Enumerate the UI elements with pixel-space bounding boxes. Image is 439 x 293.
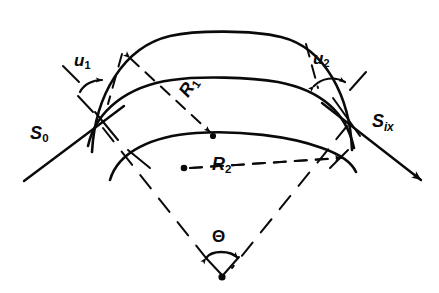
radius-r1-dashed-line bbox=[130, 58, 210, 132]
theta-leg-right-short bbox=[224, 257, 239, 274]
inner-wavefront-arc bbox=[110, 132, 356, 180]
u2-angle-arc bbox=[314, 79, 345, 86]
diagram-canvas bbox=[0, 0, 439, 293]
label-theta: Θ bbox=[212, 228, 225, 245]
label-u2: u2 bbox=[313, 50, 329, 67]
u2-upper-dash bbox=[350, 72, 366, 90]
right-node-cross-stub bbox=[333, 98, 360, 136]
theta-angle-arc bbox=[206, 252, 238, 258]
radius-r1-center-dot bbox=[210, 133, 216, 139]
label-u1: u1 bbox=[74, 52, 90, 69]
theta-leg-left-short bbox=[206, 258, 221, 274]
u1-normal-dash bbox=[108, 54, 122, 104]
label-r2: R2 bbox=[212, 155, 231, 173]
incident-ray-s0-line bbox=[24, 106, 124, 181]
label-six: Six bbox=[372, 112, 393, 130]
middle-wavefront-arc bbox=[88, 78, 354, 148]
u1-angle-arc bbox=[80, 80, 102, 92]
wavefront-curvature-diagram: u1 u2 R1 R2 S0 Six Θ bbox=[0, 0, 439, 293]
label-s0: S0 bbox=[30, 124, 48, 142]
theta-left-dashed-leg bbox=[103, 128, 214, 268]
radius-r2-center-dot bbox=[181, 165, 188, 172]
u1-lower-dash-2 bbox=[78, 96, 93, 112]
theta-right-dashed-leg bbox=[232, 126, 347, 268]
